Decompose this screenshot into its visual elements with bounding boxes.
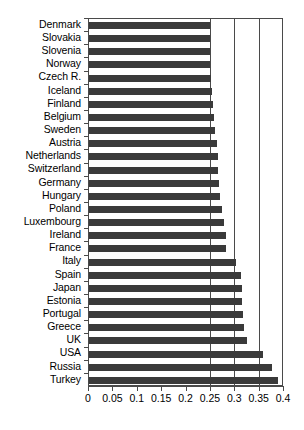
bar-turkey bbox=[89, 377, 278, 384]
y-axis-tick bbox=[84, 307, 88, 308]
bar-row bbox=[89, 124, 284, 137]
bar-netherlands bbox=[89, 153, 218, 160]
y-axis-tick bbox=[84, 281, 88, 282]
bar-row bbox=[89, 111, 284, 124]
bar-row bbox=[89, 216, 284, 229]
y-axis-tick bbox=[84, 228, 88, 229]
y-axis-tick bbox=[84, 123, 88, 124]
bar-row bbox=[89, 19, 284, 32]
bar-row bbox=[89, 374, 284, 387]
y-axis-tick bbox=[84, 136, 88, 137]
category-label: UK bbox=[0, 334, 81, 345]
category-label: Czech R. bbox=[0, 71, 81, 82]
bar-row bbox=[89, 190, 284, 203]
category-label: Austria bbox=[0, 137, 81, 148]
y-axis-tick bbox=[84, 320, 88, 321]
y-axis-tick bbox=[84, 71, 88, 72]
y-axis-tick bbox=[84, 163, 88, 164]
category-label: Poland bbox=[0, 203, 81, 214]
y-axis-tick bbox=[84, 84, 88, 85]
bar-czech-r bbox=[89, 75, 211, 82]
bar-switzerland bbox=[89, 167, 218, 174]
x-axis-tick bbox=[137, 386, 138, 391]
category-label: Ireland bbox=[0, 229, 81, 240]
x-axis-tick bbox=[210, 386, 211, 391]
category-label: Spain bbox=[0, 269, 81, 280]
category-label: Finland bbox=[0, 98, 81, 109]
x-axis-tick-label: 0.3 bbox=[227, 392, 242, 404]
category-label: Slovenia bbox=[0, 45, 81, 56]
bar-row bbox=[89, 203, 284, 216]
bar-row bbox=[89, 150, 284, 163]
y-axis-tick bbox=[84, 268, 88, 269]
bar-row bbox=[89, 256, 284, 269]
y-axis-tick bbox=[84, 373, 88, 374]
bar-uk bbox=[89, 337, 247, 344]
x-axis-tick-label: 0.15 bbox=[151, 392, 171, 404]
bar-row bbox=[89, 85, 284, 98]
bar-usa bbox=[89, 351, 263, 358]
y-axis-tick bbox=[84, 333, 88, 334]
y-axis-tick bbox=[84, 44, 88, 45]
x-axis-tick-label: 0.05 bbox=[102, 392, 122, 404]
bar-row bbox=[89, 361, 284, 374]
bar-luxembourg bbox=[89, 219, 224, 226]
category-label: USA bbox=[0, 347, 81, 358]
bar-norway bbox=[89, 61, 210, 68]
bar-germany bbox=[89, 180, 219, 187]
bar-finland bbox=[89, 101, 213, 108]
bar-row bbox=[89, 32, 284, 45]
bar-row bbox=[89, 72, 284, 85]
bar-austria bbox=[89, 140, 217, 147]
category-label: Russia bbox=[0, 361, 81, 372]
bar-row bbox=[89, 334, 284, 347]
x-axis-tick bbox=[283, 386, 284, 391]
bar-row bbox=[89, 137, 284, 150]
bar-estonia bbox=[89, 298, 242, 305]
y-axis-tick bbox=[84, 57, 88, 58]
bar-row bbox=[89, 164, 284, 177]
x-axis-tick bbox=[186, 386, 187, 391]
y-axis-tick bbox=[84, 360, 88, 361]
x-axis-tick bbox=[161, 386, 162, 391]
category-label: Switzerland bbox=[0, 163, 81, 174]
category-label: Japan bbox=[0, 282, 81, 293]
bar-iceland bbox=[89, 88, 212, 95]
bar-slovakia bbox=[89, 35, 210, 42]
bar-greece bbox=[89, 324, 244, 331]
category-label: Italy bbox=[0, 255, 81, 266]
bar-row bbox=[89, 229, 284, 242]
bar-ireland bbox=[89, 232, 226, 239]
y-axis-tick bbox=[84, 176, 88, 177]
x-axis-tick-label: 0.35 bbox=[248, 392, 268, 404]
y-axis-tick bbox=[84, 255, 88, 256]
x-axis-tick bbox=[234, 386, 235, 391]
bar-row bbox=[89, 308, 284, 321]
x-axis-tick-label: 0.2 bbox=[178, 392, 193, 404]
bar-italy bbox=[89, 259, 236, 266]
x-axis-tick-label: 0.1 bbox=[129, 392, 144, 404]
category-label: Netherlands bbox=[0, 150, 81, 161]
bar-slovenia bbox=[89, 48, 210, 55]
bar-russia bbox=[89, 364, 272, 371]
bar-hungary bbox=[89, 193, 220, 200]
y-axis-tick bbox=[84, 97, 88, 98]
category-label: Belgium bbox=[0, 111, 81, 122]
y-axis-tick bbox=[84, 18, 88, 19]
category-label: Portugal bbox=[0, 308, 81, 319]
y-axis-tick bbox=[84, 347, 88, 348]
category-label: Greece bbox=[0, 321, 81, 332]
bar-row bbox=[89, 295, 284, 308]
x-axis-tick bbox=[112, 386, 113, 391]
category-label: Slovakia bbox=[0, 32, 81, 43]
bar-sweden bbox=[89, 127, 215, 134]
bar-row bbox=[89, 282, 284, 295]
bar-row bbox=[89, 321, 284, 334]
category-label: France bbox=[0, 242, 81, 253]
bar-japan bbox=[89, 285, 242, 292]
bar-row bbox=[89, 348, 284, 361]
y-axis-tick bbox=[84, 31, 88, 32]
bar-row bbox=[89, 45, 284, 58]
y-axis-tick bbox=[84, 202, 88, 203]
category-label: Norway bbox=[0, 58, 81, 69]
